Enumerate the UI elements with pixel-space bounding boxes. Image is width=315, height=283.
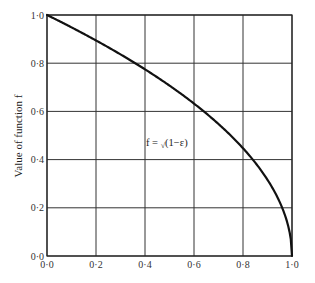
y-tick-label: 0·6 <box>31 106 44 117</box>
function-curve <box>47 15 292 256</box>
y-tick-label: 1·0 <box>31 10 44 21</box>
formula-annotation: f = √(1−ε) <box>146 137 188 150</box>
x-tick-label: 0·6 <box>187 259 200 270</box>
chart: 0·00·20·40·60·81·0 0·00·20·40·60·81·0 Va… <box>0 0 315 283</box>
y-tick-label: 0·8 <box>31 58 44 69</box>
plot-frame <box>47 15 292 256</box>
y-axis-label: Value of function f <box>12 94 24 177</box>
x-tick-label: 0·4 <box>138 259 151 270</box>
x-tick-label: 0·2 <box>89 259 102 270</box>
formula-prefix: f = <box>146 137 161 148</box>
y-tick-label: 0·0 <box>31 251 44 262</box>
formula-body: (1−ε) <box>165 137 188 149</box>
grid-lines <box>47 15 292 256</box>
x-tick-label: 0·8 <box>236 259 249 270</box>
y-axis-tick-labels: 0·00·20·40·60·81·0 <box>31 10 44 262</box>
x-tick-label: 1·0 <box>285 259 298 270</box>
y-tick-label: 0·4 <box>31 154 44 165</box>
x-axis-tick-labels: 0·00·20·40·60·81·0 <box>40 259 298 270</box>
y-tick-label: 0·2 <box>31 202 44 213</box>
